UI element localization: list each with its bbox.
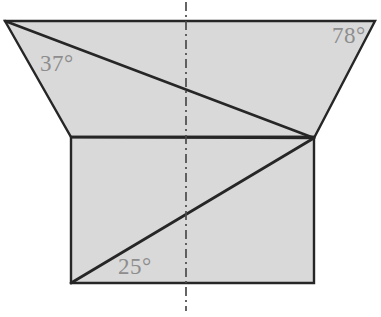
figure-canvas (0, 0, 381, 317)
geometry-figure: 37° 78° 25° (0, 0, 381, 317)
angle-label-right: 78° (332, 24, 366, 47)
angle-label-left: 37° (40, 52, 74, 75)
angle-label-bottom: 25° (118, 255, 152, 278)
